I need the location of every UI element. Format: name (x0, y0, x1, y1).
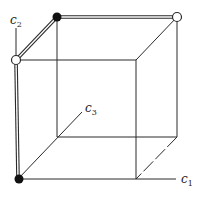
open-vertex (173, 13, 182, 22)
edge (136, 137, 177, 179)
c3-axis (18, 112, 82, 179)
c3-label: c3 (85, 101, 97, 117)
cube-diagram: c2 c3 c1 (0, 0, 200, 199)
open-vertex (12, 56, 21, 65)
filled-vertex (53, 13, 62, 22)
c2-label: c2 (10, 13, 22, 29)
c1-label: c1 (181, 172, 193, 188)
edge (136, 17, 177, 60)
highlight-path-edge (16, 60, 18, 179)
filled-vertex (15, 175, 24, 184)
highlight-path-edge (16, 17, 57, 60)
